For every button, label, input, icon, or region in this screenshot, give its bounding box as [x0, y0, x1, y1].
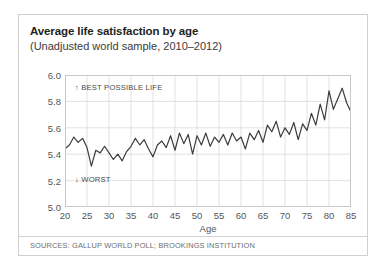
annotation-best-label: BEST POSSIBLE LIFE — [81, 83, 162, 92]
x-axis-title: Age — [65, 223, 351, 234]
up-arrow-icon: ↑ — [75, 83, 79, 92]
x-axis-tick-label: 75 — [302, 210, 313, 221]
chart-card: Average life satisfaction by age (Unadju… — [18, 14, 368, 256]
x-axis-tick-label: 65 — [258, 210, 269, 221]
y-axis-tick-label: 5.6 — [48, 122, 61, 133]
x-axis-tick-label: 20 — [60, 210, 71, 221]
y-axis-tick-label: 5.2 — [48, 175, 61, 186]
chart-header: Average life satisfaction by age (Unadju… — [30, 24, 357, 53]
sources-note: SOURCES: GALLUP WORLD POLL; BROOKINGS IN… — [30, 241, 255, 250]
plot-area: ↑ BEST POSSIBLE LIFE ↓ WORST — [65, 75, 351, 207]
annotation-worst: ↓ WORST — [75, 175, 111, 184]
y-axis-tick-label: 5.8 — [48, 96, 61, 107]
x-axis-tick-label: 60 — [236, 210, 247, 221]
x-axis-labels: 2025303540455055606570758085 — [65, 210, 351, 224]
x-axis-tick-label: 45 — [170, 210, 181, 221]
down-arrow-icon: ↓ — [75, 175, 79, 184]
annotation-worst-label: WORST — [81, 175, 110, 184]
y-axis-labels: 5.05.25.45.65.86.0 — [19, 75, 61, 207]
footer-divider — [19, 236, 367, 237]
x-axis-tick-label: 25 — [82, 210, 93, 221]
annotation-best-possible-life: ↑ BEST POSSIBLE LIFE — [75, 83, 162, 92]
plot-frame — [65, 75, 351, 207]
x-axis-tick-label: 80 — [324, 210, 335, 221]
x-axis-tick-label: 35 — [126, 210, 137, 221]
page-title: Average life satisfaction by age — [30, 24, 357, 38]
y-axis-tick-label: 6.0 — [48, 70, 61, 81]
x-axis-tick-label: 55 — [214, 210, 225, 221]
x-axis-tick-label: 50 — [192, 210, 203, 221]
x-axis-tick-label: 40 — [148, 210, 159, 221]
x-axis-tick-label: 85 — [346, 210, 357, 221]
chart-subtitle: (Unadjusted world sample, 2010–2012) — [30, 39, 357, 53]
y-axis-tick-label: 5.4 — [48, 149, 61, 160]
x-axis-tick-label: 30 — [104, 210, 115, 221]
x-axis-tick-label: 70 — [280, 210, 291, 221]
